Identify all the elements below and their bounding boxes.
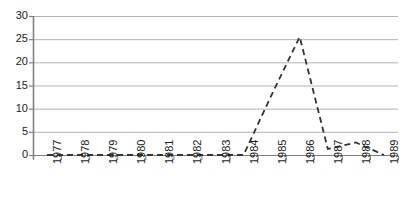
chart-container: 051015202530 197719781979198019811982198… bbox=[0, 0, 405, 200]
x-axis-label-1978: 1978 bbox=[80, 140, 91, 164]
x-axis-label-1977: 1977 bbox=[52, 140, 63, 164]
x-axis-tick-labels: 1977197819791980198119821983198419851986… bbox=[0, 0, 405, 200]
x-axis-label-1981: 1981 bbox=[164, 140, 175, 164]
x-axis-label-1982: 1982 bbox=[192, 140, 203, 164]
x-axis-label-1979: 1979 bbox=[108, 140, 119, 164]
x-axis-label-1985: 1985 bbox=[277, 140, 288, 164]
x-axis-label-1986: 1986 bbox=[305, 140, 316, 164]
x-axis-label-1988: 1988 bbox=[361, 140, 372, 164]
x-axis-label-1980: 1980 bbox=[136, 140, 147, 164]
x-axis-label-1987: 1987 bbox=[333, 140, 344, 164]
x-axis-label-1983: 1983 bbox=[221, 140, 232, 164]
x-axis-label-1989: 1989 bbox=[389, 140, 400, 164]
x-axis-label-1984: 1984 bbox=[249, 140, 260, 164]
